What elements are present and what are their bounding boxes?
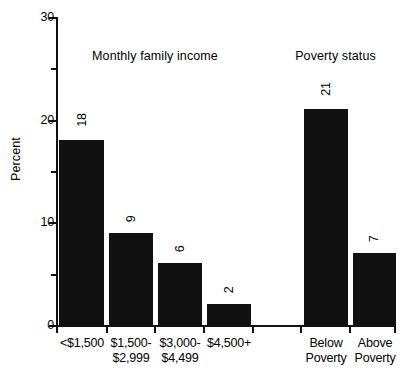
bar-value-label: 6 [174, 235, 186, 263]
x-axis-category-label-4500-plus: $4,500+ [187, 336, 271, 351]
bar-income-3000-4499 [158, 263, 202, 325]
bar-value-label: 2 [223, 276, 235, 304]
bar-chart: 0 10 20 30 Percent Monthly family income… [0, 0, 403, 378]
y-axis-line [56, 17, 58, 326]
y-axis-label-0: 0 [14, 319, 54, 331]
bar-value-label: 9 [125, 205, 137, 233]
x-axis-tick-0 [56, 327, 58, 333]
bar-income-under-1500 [59, 140, 104, 325]
x-axis-tick-1 [106, 327, 108, 333]
group-header-monthly-family-income: Monthly family income [60, 50, 250, 63]
x-axis-tick-3 [203, 327, 205, 333]
bar-value-label: 21 [320, 73, 332, 105]
y-axis-title: Percent [9, 119, 23, 199]
group-header-poverty-status: Poverty status [268, 50, 403, 63]
x-axis-tick-6 [349, 327, 351, 333]
y-axis-tick-minor-25 [51, 68, 56, 70]
bar-value-label: 18 [76, 104, 88, 136]
x-axis-tick-7 [394, 327, 396, 333]
y-axis-label-10: 10 [14, 216, 54, 228]
bar-below-poverty [304, 109, 348, 325]
bar-value-label: 7 [368, 225, 380, 253]
x-axis-tick-4 [252, 327, 254, 333]
y-axis-tick-minor-5 [51, 274, 56, 276]
x-axis-tick-5 [300, 327, 302, 333]
y-axis-tick-minor-15 [51, 171, 56, 173]
y-axis-label-30: 30 [14, 11, 54, 23]
x-axis-tick-2 [154, 327, 156, 333]
x-axis-category-label-above-poverty: Above Poverty [333, 336, 403, 365]
bar-above-poverty [353, 253, 396, 325]
bar-income-4500-plus [207, 304, 251, 325]
bar-income-1500-2999 [109, 233, 153, 325]
